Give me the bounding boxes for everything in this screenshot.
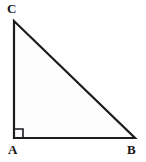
- vertex-label-a: A: [8, 143, 17, 156]
- vertex-label-c: C: [7, 2, 16, 15]
- figure-canvas: C A B: [0, 0, 146, 162]
- vertex-label-b: B: [127, 143, 136, 156]
- triangle-diagram: [0, 0, 146, 162]
